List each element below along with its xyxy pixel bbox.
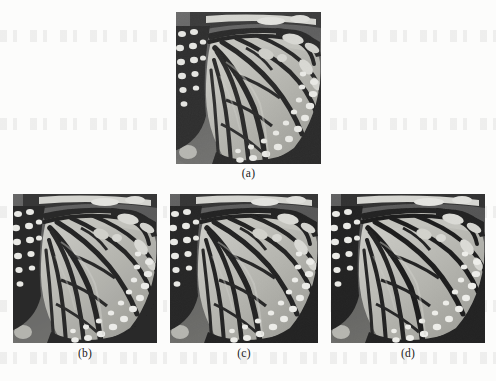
panel-caption-b: (b) — [13, 346, 157, 360]
butterfly-wing-illustration-a — [176, 12, 321, 164]
panel-caption-c: (c) — [170, 346, 318, 360]
butterfly-wing-illustration-b — [13, 194, 157, 343]
panel-image-a — [176, 12, 321, 164]
panel-image-b — [13, 194, 157, 343]
panel-image-d — [331, 194, 485, 343]
butterfly-wing-illustration-c — [170, 194, 318, 343]
figure-container: (a) — [0, 0, 496, 381]
panel-caption-a: (a) — [176, 166, 321, 180]
panel-image-c — [170, 194, 318, 343]
butterfly-wing-illustration-d — [331, 194, 485, 343]
panel-caption-d: (d) — [331, 346, 485, 360]
